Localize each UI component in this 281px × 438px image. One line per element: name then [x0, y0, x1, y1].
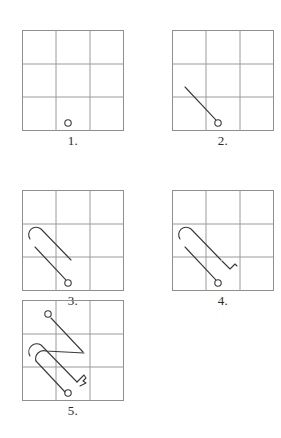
- outer-hairpin: [29, 344, 77, 382]
- grid-lines: [173, 191, 274, 291]
- grid-panel-1: [22, 30, 124, 131]
- outer-hairpin: [179, 227, 221, 260]
- figure-sheet: 1. 2.: [0, 0, 281, 438]
- grid-panel-2: [172, 30, 274, 131]
- zigzag-hook: [222, 261, 237, 269]
- diagonal-line: [35, 247, 66, 280]
- paperclip-drawing-step-2: [185, 87, 221, 126]
- panel-caption-5: 5.: [22, 403, 124, 419]
- grid-panel-3: [22, 190, 124, 291]
- diagonal-line: [185, 247, 216, 280]
- grid-lines: [23, 191, 124, 291]
- inner-hairpin: [36, 351, 84, 361]
- start-circle: [215, 120, 221, 126]
- tail-hook: [77, 375, 86, 386]
- outer-hairpin: [29, 227, 71, 260]
- paperclip-drawing-step-1: [65, 120, 71, 126]
- start-circle: [65, 390, 71, 396]
- grid-panel-5: [22, 300, 124, 401]
- panel-caption-1: 1.: [22, 133, 124, 149]
- start-circle: [65, 280, 71, 286]
- panel-caption-4: 4.: [172, 293, 274, 309]
- paperclip-drawing-step-5: [29, 311, 86, 396]
- grid-lines: [173, 31, 274, 131]
- diagonal-line: [185, 87, 216, 120]
- grid-panel-4: [172, 190, 274, 291]
- grid-lines: [23, 301, 124, 401]
- start-circle: [215, 280, 221, 286]
- start-circle: [65, 120, 71, 126]
- grid-lines: [23, 31, 124, 131]
- panel-caption-2: 2.: [172, 133, 274, 149]
- end-circle: [45, 311, 51, 317]
